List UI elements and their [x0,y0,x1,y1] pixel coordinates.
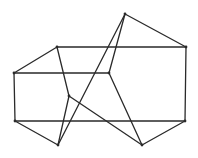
edge-A-L [14,47,57,73]
graph-diagram [0,0,198,158]
vertex-L [13,72,16,75]
edge-T-R [125,14,186,47]
vertex-Q [57,144,60,147]
vertex-S [141,144,144,147]
vertex-P [68,95,71,98]
edge-S-BR [142,121,185,145]
edge-A-P [57,47,69,96]
edge-T-M [109,14,125,73]
edge-L-BL [14,73,15,121]
vertex-T [124,13,127,16]
edge-R-BR [185,47,186,121]
vertex-R [185,46,188,49]
edge-BL-Q [15,121,58,145]
edge-T-Q [58,14,125,145]
vertex-BL [14,120,17,123]
vertex-BR [184,120,187,123]
vertex-A [56,46,59,49]
vertex-M [108,72,111,75]
